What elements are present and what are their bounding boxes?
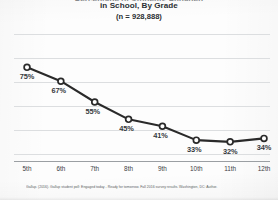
data-label-8th: 45% (119, 124, 134, 133)
data-label-10th: 33% (187, 145, 202, 154)
data-label-5th: 75% (20, 72, 35, 81)
x-tick-5th: 5th (23, 165, 32, 172)
data-point-9th (160, 123, 166, 129)
data-label-6th: 67% (52, 86, 67, 95)
chart-figure: Percentage of Students Engaged in School… (0, 0, 278, 200)
x-tick-7th: 7th (90, 165, 99, 172)
x-tick-11th: 11th (224, 165, 236, 172)
data-label-12th: 34% (257, 143, 272, 152)
data-point-6th (58, 78, 64, 84)
chart-title-line-2: in School, By Grade (0, 1, 278, 11)
x-tick-12th: 12th (258, 165, 270, 172)
data-point-10th (193, 137, 199, 143)
line-series-svg (0, 28, 278, 160)
x-tick-9th: 9th (158, 165, 167, 172)
chart-title-line-1: Percentage of Students Engaged (0, 0, 278, 1)
data-point-5th (24, 64, 30, 70)
data-point-12th (261, 136, 267, 142)
chart-title-block: Percentage of Students Engaged in School… (0, 0, 278, 22)
x-tick-6th: 6th (56, 165, 65, 172)
source-citation: Gallup. (2016). Gallup student poll: Eng… (26, 185, 258, 189)
data-point-7th (92, 99, 98, 105)
data-point-8th (126, 116, 132, 122)
data-point-markers (24, 64, 267, 144)
data-label-11th: 32% (223, 147, 238, 156)
plot-area: 75%67%55%45%41%33%32%34% (0, 28, 278, 160)
chart-sample-size: (n = 928,888) (0, 12, 278, 22)
x-tick-8th: 8th (124, 165, 133, 172)
x-axis-tick-labels: 5th6th7th8th9th10th11th12th (0, 165, 278, 177)
data-point-11th (227, 139, 233, 145)
data-label-9th: 41% (153, 131, 168, 140)
x-tick-10th: 10th (190, 165, 202, 172)
page-bottom-shadow (0, 197, 278, 200)
data-label-7th: 55% (85, 107, 100, 116)
x-axis-line (14, 161, 270, 162)
